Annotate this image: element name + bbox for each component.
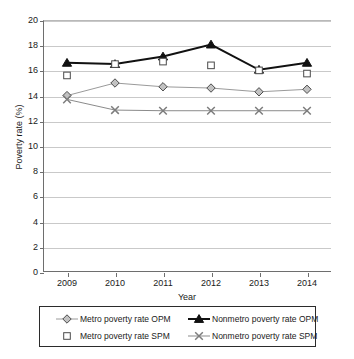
series-3 — [63, 96, 311, 115]
series-line — [67, 99, 307, 110]
x-tick-mark — [308, 273, 309, 277]
legend-label: Nonmetro poverty rate OPM — [212, 315, 318, 324]
series-0 — [63, 79, 311, 100]
data-point-diamond-gray — [111, 79, 119, 87]
diamond-gray-key-icon — [54, 312, 80, 326]
legend-label: Nonmetro poverty rate SPM — [212, 332, 317, 341]
data-point-diamond-gray — [207, 84, 215, 92]
x-axis-title: Year — [43, 292, 331, 302]
square-open-key-icon — [54, 329, 80, 343]
y-tick-label: 0 — [14, 268, 38, 277]
x-tick-label: 2013 — [239, 278, 279, 288]
data-point-diamond-gray — [63, 315, 71, 323]
data-point-square-open — [160, 58, 167, 65]
y-tick-label: 10 — [14, 142, 38, 151]
series-line — [67, 83, 307, 96]
x-tick-label: 2012 — [191, 278, 231, 288]
legend-entry[interactable]: Metro poverty rate OPM — [54, 311, 171, 327]
y-tick-label: 14 — [14, 92, 38, 101]
x-tick-mark — [68, 273, 69, 277]
poverty-rate-line-chart: Poverty rate (%) 02468101214161820 20092… — [0, 0, 354, 359]
legend-entry[interactable]: Metro poverty rate SPM — [54, 328, 170, 344]
chart-legend: Metro poverty rate OPMNonmetro poverty r… — [39, 306, 316, 347]
data-point-square-open — [304, 70, 311, 77]
data-point-square-open — [112, 61, 119, 68]
y-tick-label: 8 — [14, 167, 38, 176]
x-gray-key-icon — [186, 329, 212, 343]
legend-label: Metro poverty rate SPM — [80, 332, 170, 341]
data-point-square-open — [208, 62, 215, 69]
data-point-square-open — [256, 67, 263, 74]
x-tick-label: 2011 — [143, 278, 183, 288]
data-point-diamond-gray — [255, 88, 263, 96]
triangle-black-key-icon — [186, 312, 212, 326]
x-tick-label: 2009 — [47, 278, 87, 288]
series-line — [67, 45, 307, 70]
data-point-triangle-black — [206, 40, 215, 48]
x-tick-mark — [260, 273, 261, 277]
legend-entry[interactable]: Nonmetro poverty rate OPM — [186, 311, 318, 327]
y-tick-label: 6 — [14, 192, 38, 201]
data-point-diamond-gray — [159, 83, 167, 91]
x-tick-mark — [212, 273, 213, 277]
x-tick-label: 2010 — [95, 278, 135, 288]
legend-label: Metro poverty rate OPM — [80, 315, 171, 324]
legend-entry[interactable]: Nonmetro poverty rate SPM — [186, 328, 317, 344]
x-tick-mark — [116, 273, 117, 277]
y-tick-label: 4 — [14, 218, 38, 227]
data-point-square-open — [64, 333, 71, 340]
y-tick-label: 2 — [14, 243, 38, 252]
y-tick-label: 12 — [14, 117, 38, 126]
data-point-diamond-gray — [303, 85, 311, 93]
y-tick-label: 20 — [14, 16, 38, 25]
series-2 — [62, 40, 311, 73]
data-series-layer — [43, 20, 331, 272]
data-point-square-open — [64, 72, 71, 79]
x-tick-mark — [164, 273, 165, 277]
y-tick-mark — [40, 273, 44, 274]
y-tick-label: 16 — [14, 66, 38, 75]
y-tick-label: 18 — [14, 41, 38, 50]
x-tick-label: 2014 — [287, 278, 327, 288]
